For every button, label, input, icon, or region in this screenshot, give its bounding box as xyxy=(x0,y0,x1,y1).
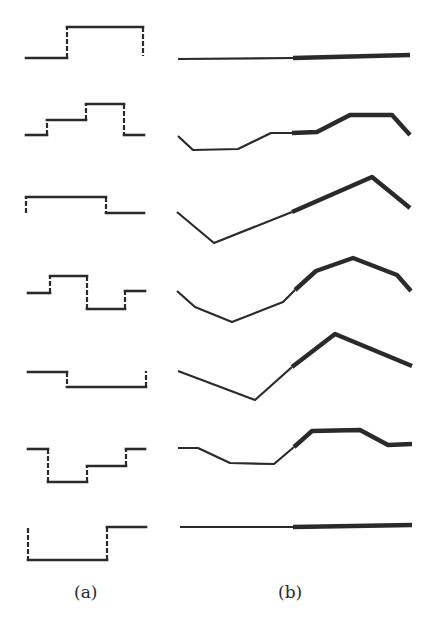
panel-a-step-waveforms xyxy=(26,27,146,560)
figure-canvas xyxy=(0,0,432,622)
step-waveform-5 xyxy=(28,371,146,387)
curve-1 xyxy=(178,55,410,59)
step-waveform-3 xyxy=(26,197,144,213)
step-waveform-6 xyxy=(28,449,145,482)
step-waveform-1 xyxy=(26,27,143,58)
curve-5 xyxy=(178,334,412,400)
step-waveform-2 xyxy=(26,104,144,135)
panel-b-curves xyxy=(177,55,412,527)
step-waveform-4 xyxy=(28,276,145,309)
panel-b-label: (b) xyxy=(278,582,302,602)
curve-7 xyxy=(180,525,412,527)
step-waveform-7 xyxy=(28,527,146,560)
panel-a-label: (a) xyxy=(74,582,97,602)
curve-4 xyxy=(177,258,411,322)
curve-2 xyxy=(178,115,410,150)
curve-6 xyxy=(178,430,412,464)
curve-3 xyxy=(177,177,410,243)
